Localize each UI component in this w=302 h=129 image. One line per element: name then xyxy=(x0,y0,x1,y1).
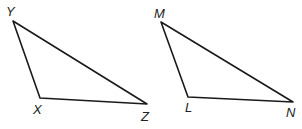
vertex-label-l: L xyxy=(185,100,192,115)
triangles-diagram: YXZMLN xyxy=(0,0,302,129)
vertex-label-n: N xyxy=(286,105,296,120)
vertex-label-x: X xyxy=(32,102,43,117)
triangle-lmn xyxy=(161,22,293,102)
vertex-label-y: Y xyxy=(6,4,16,19)
triangle-xyz xyxy=(13,21,147,104)
vertex-label-z: Z xyxy=(140,109,150,124)
vertex-label-m: M xyxy=(154,6,165,21)
